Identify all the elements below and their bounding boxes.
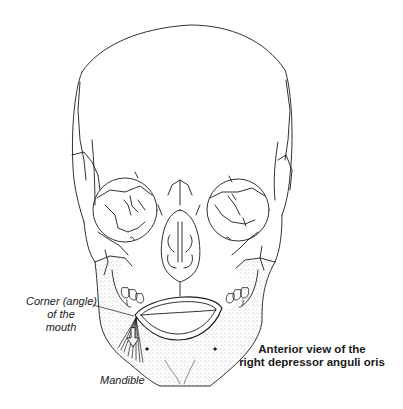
label-line: of the <box>26 308 96 321</box>
teeth <box>121 288 249 307</box>
cranium-outline <box>82 25 292 215</box>
mandible-label: Mandible <box>100 374 145 387</box>
caption-line: right depressor anguli oris <box>238 356 386 369</box>
nasal-aperture <box>161 210 200 282</box>
label-line: Corner (angle) <box>26 295 96 308</box>
figure-caption: Anterior view of the right depressor ang… <box>238 343 386 369</box>
label-line: mouth <box>26 321 96 334</box>
left-orbit <box>93 178 157 242</box>
caption-line: Anterior view of the <box>238 343 386 356</box>
corner-of-mouth-label: Corner (angle) of the mouth <box>26 295 96 334</box>
